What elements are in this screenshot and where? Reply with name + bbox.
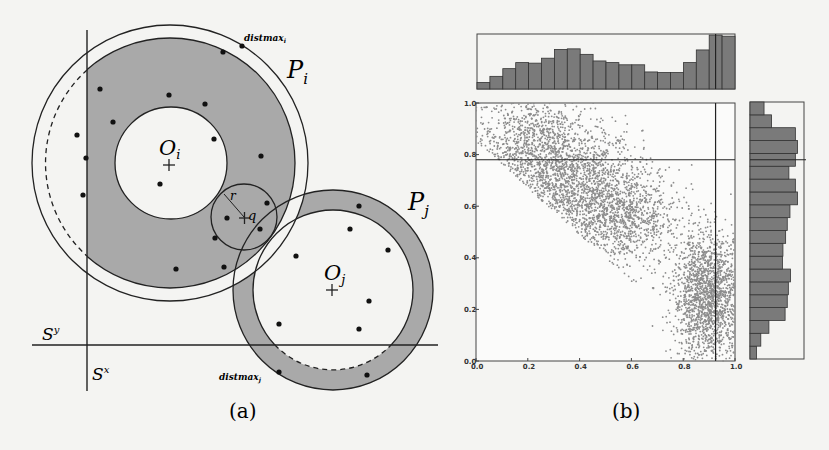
histogram-bar	[658, 73, 671, 90]
histogram-bar	[750, 115, 772, 128]
data-point	[258, 153, 263, 158]
y-tick-label: 0.6	[464, 203, 477, 211]
data-point	[157, 181, 162, 186]
histogram-bar	[750, 231, 786, 244]
data-point	[212, 235, 217, 240]
y-tick-label: 0.4	[464, 254, 477, 262]
histogram-bar	[477, 82, 490, 89]
histogram-bar	[750, 320, 769, 333]
y-tick-label: 0.8	[464, 151, 477, 159]
data-point	[356, 203, 361, 208]
histogram-bar	[750, 295, 787, 308]
histogram-bar	[750, 102, 764, 115]
pj-label: Pj	[407, 188, 429, 220]
right-histogram	[750, 102, 806, 359]
data-point	[276, 369, 281, 374]
histogram-bar	[542, 58, 555, 89]
pi-label: Pi	[286, 56, 308, 88]
data-point	[220, 49, 225, 54]
histogram-bar	[529, 63, 542, 89]
scatter-plot: 0.00.20.40.60.81.00.00.20.40.60.81.0	[464, 100, 743, 372]
x-tick-label: 0.2	[523, 363, 536, 371]
histogram-bar	[750, 243, 783, 256]
data-point	[347, 226, 352, 231]
panel-b: 0.00.20.40.60.81.00.00.20.40.60.81.0 (b)	[464, 34, 806, 423]
top-histogram	[477, 34, 735, 89]
pi-partition	[32, 25, 308, 301]
histogram-bar	[593, 61, 606, 89]
data-point	[83, 155, 88, 160]
data-point	[364, 372, 369, 377]
histogram-bar	[490, 76, 503, 89]
histogram-bar	[750, 179, 795, 192]
histogram-bar	[580, 54, 593, 89]
histogram-bar	[567, 49, 580, 89]
data-point	[110, 119, 115, 124]
data-point	[166, 92, 171, 97]
histogram-bar	[750, 166, 789, 179]
x-tick-label: 0.6	[626, 363, 639, 371]
data-point	[173, 266, 178, 271]
x-tick-label: 0.8	[678, 363, 691, 371]
histogram-bar	[750, 128, 795, 141]
data-point	[211, 136, 216, 141]
histogram-bar	[516, 63, 529, 89]
histogram-bar	[750, 269, 791, 282]
caption-a: (a)	[229, 399, 257, 423]
distmax-i-label: distmaxi	[244, 33, 287, 44]
distmax-j-label: distmaxj	[219, 372, 262, 384]
sy-label: Sy	[42, 324, 60, 344]
data-point	[80, 192, 85, 197]
histogram-bar	[645, 72, 658, 89]
histogram-bar	[722, 36, 735, 89]
data-point	[239, 43, 244, 48]
panel-a: Oi Oj Pi Pj Sy Sx q r distmaxi distmaxj …	[32, 25, 438, 423]
histogram-bar	[750, 205, 790, 218]
histogram-bar	[750, 282, 788, 295]
histogram-bar	[750, 192, 798, 205]
data-point	[257, 226, 262, 231]
caption-b: (b)	[612, 399, 640, 423]
x-tick-label: 0.4	[575, 363, 588, 371]
histogram-bar	[750, 256, 782, 269]
histogram-bar	[750, 308, 785, 321]
histogram-bar	[683, 63, 696, 89]
figure: Oi Oj Pi Pj Sy Sx q r distmaxi distmaxj …	[0, 0, 829, 450]
histogram-bar	[619, 65, 632, 89]
data-point	[385, 247, 390, 252]
histogram-bar	[750, 346, 756, 359]
x-tick-label: 1.0	[730, 363, 743, 371]
histogram-bar	[750, 141, 798, 154]
histogram-bar	[606, 63, 619, 89]
data-point	[276, 321, 281, 326]
data-point	[264, 200, 269, 205]
data-point	[224, 215, 229, 220]
histogram-bar	[632, 65, 645, 89]
sx-label: Sx	[92, 364, 110, 384]
q-label: q	[248, 208, 256, 223]
y-tick-label: 1.0	[464, 100, 477, 108]
histogram-bar	[750, 333, 761, 346]
histogram-bar	[503, 69, 516, 89]
y-tick-label: 0.0	[464, 358, 477, 366]
data-point	[221, 264, 226, 269]
data-point	[97, 86, 102, 91]
data-point	[293, 253, 298, 258]
histogram-bar	[554, 49, 567, 89]
histogram-bar	[671, 73, 684, 90]
data-point	[74, 132, 79, 137]
data-point	[356, 326, 361, 331]
pi-inner-circle	[115, 107, 227, 219]
data-point	[202, 101, 207, 106]
histogram-bar	[696, 50, 709, 89]
data-point	[366, 298, 371, 303]
histogram-bar	[750, 218, 787, 231]
y-tick-label: 0.2	[464, 306, 477, 314]
